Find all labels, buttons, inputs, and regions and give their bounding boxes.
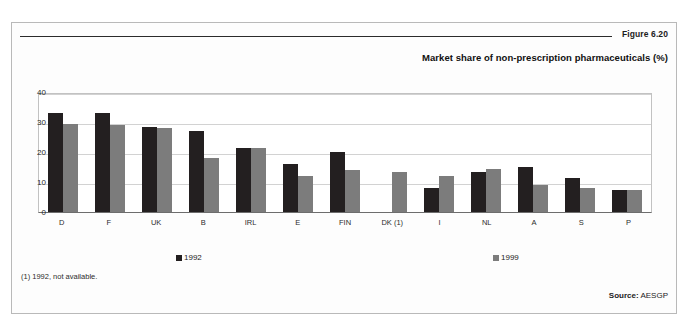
bar-1999-B	[204, 158, 219, 212]
bar-1992-IRL	[236, 148, 251, 213]
source-value: AESGP	[640, 291, 668, 300]
bar-group	[369, 94, 416, 212]
legend-swatch-1999	[493, 255, 499, 261]
bar-1992-A	[518, 167, 533, 212]
bar-group	[416, 94, 463, 212]
plot-area	[38, 93, 652, 213]
legend-swatch-1992	[176, 255, 182, 261]
bar-group	[604, 94, 651, 212]
bar-1999-S	[580, 188, 595, 212]
y-tick-label-20: 20	[24, 149, 46, 157]
x-tick-label: I	[416, 218, 463, 232]
x-tick-label: A	[510, 218, 557, 232]
bar-1992-E	[283, 164, 298, 212]
bar-group	[39, 94, 86, 212]
bar-1992-FIN	[330, 152, 345, 212]
x-tick-label: E	[274, 218, 321, 232]
bar-group	[86, 94, 133, 212]
legend-label-1999: 1999	[501, 253, 519, 262]
bar-1992-S	[565, 178, 580, 213]
y-tick-label-30: 30	[24, 119, 46, 127]
legend-label-1992: 1992	[184, 253, 202, 262]
x-tick-label: DK (1)	[369, 218, 416, 232]
x-tick-label: B	[180, 218, 227, 232]
bar-group	[463, 94, 510, 212]
y-tick-label-40: 40	[24, 89, 46, 97]
x-tick-label: P	[605, 218, 652, 232]
bar-group	[557, 94, 604, 212]
footnote: (1) 1992, not available.	[21, 272, 97, 282]
x-tick-label: UK	[132, 218, 179, 232]
figure-number-rule	[20, 36, 612, 37]
legend-item-1999: 1999	[493, 253, 519, 262]
source-label: Source:	[609, 291, 639, 300]
figure-number: Figure 6.20	[622, 29, 668, 40]
x-tick-label: F	[85, 218, 132, 232]
legend-item-1992: 1992	[176, 253, 202, 262]
x-axis-labels: DFUKBIRLEFINDK (1)INLASP	[38, 218, 652, 232]
bar-1999-A	[533, 185, 548, 212]
bar-1992-D	[48, 113, 63, 212]
x-tick-label: NL	[463, 218, 510, 232]
y-tick-label-10: 10	[24, 179, 46, 187]
x-tick-label: S	[558, 218, 605, 232]
figure-page: Figure 6.20 Market share of non-prescrip…	[0, 0, 690, 332]
bar-1999-UK	[157, 128, 172, 212]
bar-group	[321, 94, 368, 212]
bar-1999-FIN	[345, 170, 360, 212]
y-tick-label-0: 0	[24, 209, 46, 217]
bar-1999-I	[439, 176, 454, 212]
x-tick-label: IRL	[227, 218, 274, 232]
bar-1999-D	[63, 124, 78, 213]
bar-1992-F	[95, 113, 110, 212]
bar-group	[510, 94, 557, 212]
bars-layer	[39, 94, 651, 212]
bar-1992-UK	[142, 127, 157, 213]
bar-group	[227, 94, 274, 212]
bar-1992-B	[189, 131, 204, 212]
bar-1999-E	[298, 176, 313, 212]
bar-1992-NL	[471, 172, 486, 213]
bar-1999-F	[110, 125, 125, 212]
bar-group	[133, 94, 180, 212]
bar-1999-P	[627, 190, 642, 213]
bar-1999-NL	[486, 169, 501, 213]
bar-1999-IRL	[251, 148, 266, 213]
x-tick-label: D	[38, 218, 85, 232]
x-tick-label: FIN	[321, 218, 368, 232]
bar-group	[274, 94, 321, 212]
chart-title: Market share of non-prescription pharmac…	[422, 52, 668, 63]
source-note: Source: AESGP	[609, 291, 668, 301]
bar-1992-I	[424, 188, 439, 212]
bar-1992-P	[612, 190, 627, 213]
bar-1999-DK1	[392, 172, 407, 213]
bar-group	[180, 94, 227, 212]
